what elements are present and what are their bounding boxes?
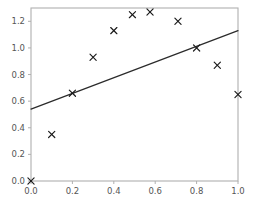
y-tick-label: 0.0 — [11, 176, 25, 186]
x-tick-label: 0.8 — [190, 186, 204, 196]
x-tick-label: 0.0 — [24, 186, 38, 196]
fit-line — [31, 31, 238, 110]
data-point-marker — [129, 12, 135, 18]
plot-frame — [31, 8, 238, 181]
data-point-markers — [28, 9, 241, 184]
y-tick-label: 0.4 — [11, 123, 25, 133]
y-tick-label: 0.8 — [11, 70, 25, 80]
x-tick-label: 1.0 — [231, 186, 245, 196]
x-tick-label: 0.2 — [66, 186, 80, 196]
chart-figure: 0.00.20.40.60.81.0 0.00.20.40.60.81.01.2 — [0, 0, 256, 212]
data-point-marker — [111, 28, 117, 34]
data-point-marker — [147, 9, 153, 15]
y-tick-label: 0.6 — [11, 96, 25, 106]
x-axis-tick-labels: 0.00.20.40.60.81.0 — [24, 186, 245, 196]
data-point-marker — [90, 54, 96, 60]
data-point-marker — [214, 62, 220, 68]
y-tick-label: 1.2 — [11, 16, 25, 26]
y-tick-label: 0.2 — [11, 149, 25, 159]
y-tick-label: 1.0 — [11, 43, 25, 53]
x-tick-label: 0.6 — [148, 186, 162, 196]
data-point-marker — [175, 18, 181, 24]
y-axis-tick-labels: 0.00.20.40.60.81.01.2 — [11, 16, 25, 186]
regression-line — [31, 31, 238, 110]
scatter-plot-canvas: 0.00.20.40.60.81.0 0.00.20.40.60.81.01.2 — [0, 0, 256, 212]
x-tick-label: 0.4 — [107, 186, 121, 196]
data-point-marker — [49, 131, 55, 137]
